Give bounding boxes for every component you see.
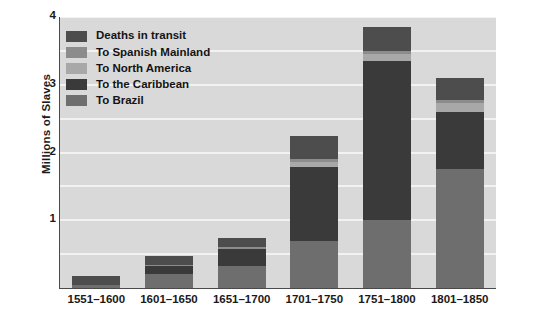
legend-swatch-icon bbox=[66, 95, 87, 106]
x-axis-tick-labels: 1551–16001601–16501651–17001701–17501751… bbox=[60, 293, 496, 313]
gridline-4 bbox=[60, 17, 496, 18]
stacked-bar-chart: Millions of Slaves 1234 1551–16001601–16… bbox=[0, 0, 535, 327]
x-tick-label-1651–1700: 1651–1700 bbox=[205, 293, 278, 305]
legend-swatch-icon bbox=[66, 79, 87, 90]
x-tick-label-1701–1750: 1701–1750 bbox=[278, 293, 351, 305]
bar-segment bbox=[363, 27, 411, 51]
legend-item-label: Deaths in transit bbox=[96, 30, 186, 42]
bar-1801–1850[interactable] bbox=[436, 78, 484, 288]
legend-swatch-icon bbox=[66, 63, 87, 74]
legend-item[interactable]: To the Caribbean bbox=[66, 77, 210, 93]
bar-segment bbox=[290, 136, 338, 160]
gridline-1 bbox=[60, 219, 496, 221]
legend-item[interactable]: To Spanish Mainland bbox=[66, 44, 210, 60]
bar-segment bbox=[72, 285, 120, 288]
bar-segment bbox=[363, 220, 411, 288]
x-tick-label-1751–1800: 1751–1800 bbox=[351, 293, 424, 305]
y-tick-label-3: 3 bbox=[34, 77, 56, 89]
bar-1551–1600[interactable] bbox=[72, 276, 120, 288]
bar-1601–1650[interactable] bbox=[145, 256, 193, 289]
gridline-2 bbox=[60, 152, 496, 154]
x-tick-label-1601–1650: 1601–1650 bbox=[133, 293, 206, 305]
bar-segment bbox=[145, 256, 193, 265]
bar-segment bbox=[290, 167, 338, 240]
bar-segment bbox=[436, 169, 484, 288]
legend-item-label: To Brazil bbox=[96, 95, 144, 107]
bar-segment bbox=[218, 238, 266, 247]
bar-segment bbox=[290, 241, 338, 288]
bar-1651–1700[interactable] bbox=[218, 238, 266, 288]
legend-item[interactable]: To Brazil bbox=[66, 93, 210, 109]
chart-legend: Deaths in transitTo Spanish MainlandTo N… bbox=[66, 28, 210, 109]
bar-segment bbox=[218, 249, 266, 267]
gridline-minor-2.5 bbox=[60, 118, 496, 120]
legend-item-label: To the Caribbean bbox=[96, 79, 189, 91]
y-tick-label-4: 4 bbox=[34, 9, 56, 21]
bar-segment bbox=[145, 274, 193, 288]
legend-item[interactable]: Deaths in transit bbox=[66, 28, 210, 44]
legend-item[interactable]: To North America bbox=[66, 60, 210, 76]
gridline-minor-1.5 bbox=[60, 185, 496, 187]
gridline-minor-0.5 bbox=[60, 253, 496, 255]
legend-item-label: To North America bbox=[96, 63, 191, 75]
bar-1751–1800[interactable] bbox=[363, 27, 411, 288]
legend-item-label: To Spanish Mainland bbox=[96, 47, 210, 59]
legend-swatch-icon bbox=[66, 47, 87, 58]
y-tick-label-1: 1 bbox=[34, 212, 56, 224]
bar-segment bbox=[72, 276, 120, 285]
bar-segment bbox=[436, 78, 484, 100]
x-tick-label-1801–1850: 1801–1850 bbox=[423, 293, 496, 305]
y-tick-label-2: 2 bbox=[34, 145, 56, 157]
bar-segment bbox=[436, 103, 484, 112]
legend-swatch-icon bbox=[66, 31, 87, 42]
bar-segment bbox=[436, 112, 484, 170]
bar-1701–1750[interactable] bbox=[290, 136, 338, 288]
x-tick-label-1551–1600: 1551–1600 bbox=[60, 293, 133, 305]
bar-segment bbox=[145, 266, 193, 274]
bar-segment bbox=[218, 266, 266, 288]
y-axis-tick-labels: 1234 bbox=[30, 0, 56, 327]
x-axis-line bbox=[59, 288, 496, 289]
bar-segment bbox=[363, 61, 411, 220]
bar-segment bbox=[363, 54, 411, 61]
